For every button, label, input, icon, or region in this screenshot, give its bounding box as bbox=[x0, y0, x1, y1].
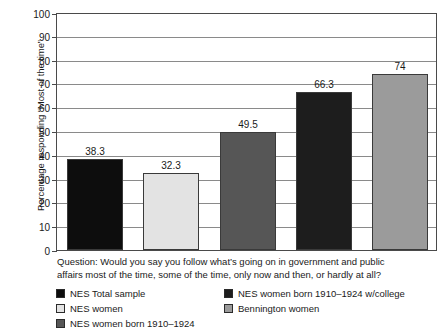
bars-layer: 38.332.349.566.374 bbox=[57, 14, 436, 250]
y-axis-tick-label: 10 bbox=[39, 222, 50, 233]
bar-chart-figure: Percentage responding “Most of the time”… bbox=[0, 0, 442, 332]
legend: NES Total sampleNES womenNES women born … bbox=[56, 288, 442, 332]
question-caption-line-1: Question: Would you say you follow what’… bbox=[57, 256, 437, 269]
bar[interactable] bbox=[372, 74, 428, 250]
y-axis-tick-label: 90 bbox=[39, 32, 50, 43]
bar-value-label: 38.3 bbox=[67, 146, 123, 157]
legend-item[interactable]: Bennington women bbox=[224, 303, 442, 315]
legend-swatch-icon bbox=[56, 319, 65, 328]
y-axis-tick-label: 80 bbox=[39, 56, 50, 67]
question-caption-line-2: affairs most of the time, some of the ti… bbox=[57, 269, 437, 282]
question-caption: Question: Would you say you follow what’… bbox=[57, 256, 437, 281]
bar-value-label: 66.3 bbox=[296, 79, 352, 90]
legend-item[interactable]: NES Total sample bbox=[56, 288, 226, 300]
legend-item-label: NES women born 1910–1924 bbox=[70, 318, 195, 329]
legend-swatch-icon bbox=[56, 304, 65, 313]
bar-slot: 66.3 bbox=[296, 14, 352, 250]
bar[interactable] bbox=[220, 132, 276, 250]
legend-column-right: NES women born 1910–1924 w/collegeBennin… bbox=[224, 288, 442, 317]
y-axis-tick-label: 50 bbox=[39, 127, 50, 138]
bar-slot: 49.5 bbox=[220, 14, 276, 250]
y-axis-tick-label: 30 bbox=[39, 175, 50, 186]
y-axis-tick-label: 40 bbox=[39, 151, 50, 162]
bar[interactable] bbox=[296, 92, 352, 250]
bar[interactable] bbox=[67, 159, 123, 250]
y-axis-tick-label: 60 bbox=[39, 103, 50, 114]
legend-item[interactable]: NES women born 1910–1924 bbox=[56, 317, 226, 329]
legend-swatch-icon bbox=[224, 304, 233, 313]
legend-swatch-icon bbox=[224, 289, 233, 298]
bar-slot: 38.3 bbox=[67, 14, 123, 250]
legend-item-label: NES Total sample bbox=[70, 288, 145, 299]
legend-item[interactable]: NES women bbox=[56, 303, 226, 315]
bar[interactable] bbox=[143, 173, 199, 250]
bar-value-label: 49.5 bbox=[220, 119, 276, 130]
legend-item-label: NES women bbox=[70, 303, 123, 314]
legend-swatch-icon bbox=[56, 289, 65, 298]
y-axis-tick-label: 0 bbox=[44, 246, 50, 257]
legend-item-label: Bennington women bbox=[238, 303, 319, 314]
y-axis-tick-label: 100 bbox=[33, 9, 50, 20]
bar-slot: 32.3 bbox=[143, 14, 199, 250]
legend-item[interactable]: NES women born 1910–1924 w/college bbox=[224, 288, 442, 300]
bar-slot: 74 bbox=[372, 14, 428, 250]
bar-value-label: 32.3 bbox=[143, 160, 199, 171]
y-axis-tick-label: 20 bbox=[39, 198, 50, 209]
legend-item-label: NES women born 1910–1924 w/college bbox=[238, 288, 405, 299]
plot-area: 1009080706050403020100 38.332.349.566.37… bbox=[56, 13, 437, 251]
legend-column-left: NES Total sampleNES womenNES women born … bbox=[56, 288, 226, 332]
y-axis-tick-mark bbox=[52, 251, 57, 252]
bar-value-label: 74 bbox=[372, 61, 428, 72]
y-axis-tick-label: 70 bbox=[39, 79, 50, 90]
